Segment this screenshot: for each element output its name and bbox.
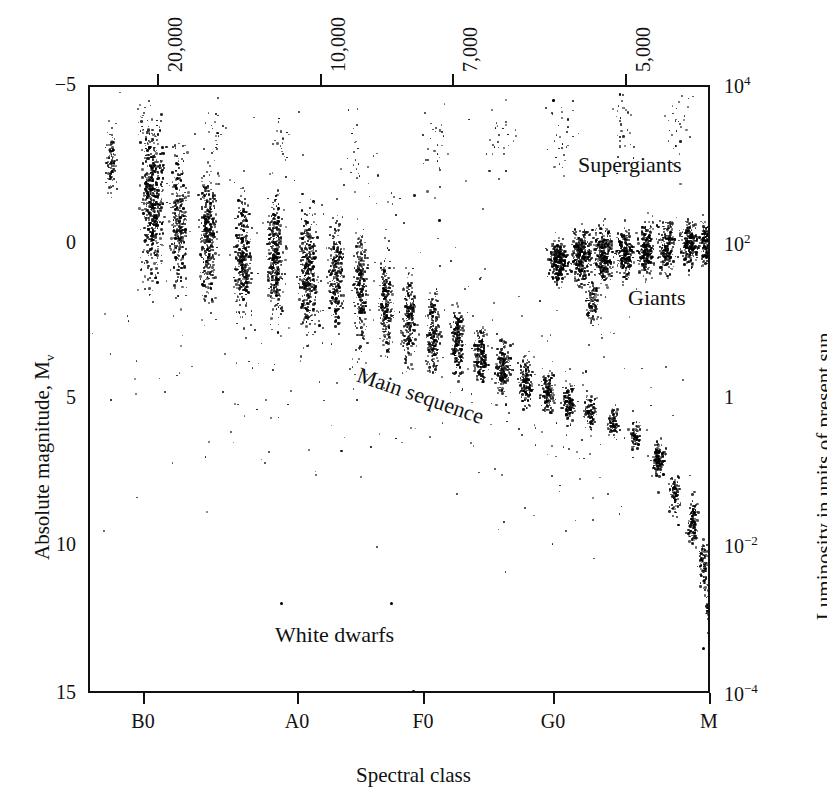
- data-point: [527, 394, 530, 397]
- data-point: [213, 271, 214, 272]
- data-point: [238, 248, 241, 251]
- data-point: [549, 379, 552, 382]
- data-point: [682, 232, 683, 233]
- data-point: [137, 289, 139, 291]
- data-point: [355, 245, 358, 248]
- data-point: [577, 279, 580, 282]
- data-point: [437, 153, 439, 155]
- data-point: [598, 324, 599, 325]
- data-point: [178, 252, 179, 253]
- data-point: [619, 136, 621, 138]
- data-point: [428, 366, 431, 369]
- data-point: [323, 400, 325, 402]
- data-point: [566, 131, 568, 133]
- data-point: [603, 246, 605, 248]
- data-point: [441, 376, 444, 379]
- data-point: [503, 521, 505, 523]
- data-point: [694, 223, 697, 226]
- data-point: [599, 269, 601, 271]
- data-point: [272, 218, 274, 220]
- data-point: [357, 251, 359, 253]
- annotation-white-dwarfs: White dwarfs: [275, 622, 394, 648]
- data-point: [684, 257, 687, 260]
- data-point: [205, 204, 207, 206]
- data-point: [428, 349, 430, 351]
- data-point: [246, 250, 248, 252]
- data-point: [658, 452, 660, 454]
- data-point: [215, 319, 216, 320]
- data-point: [353, 302, 355, 304]
- data-point: [199, 275, 202, 278]
- data-point: [624, 437, 626, 439]
- data-point: [273, 208, 275, 210]
- data-point: [589, 415, 590, 416]
- data-point: [403, 335, 406, 338]
- data-point: [527, 399, 530, 402]
- data-point: [282, 142, 284, 144]
- data-point: [338, 333, 340, 335]
- data-point: [541, 431, 543, 433]
- data-point: [373, 319, 375, 321]
- data-point: [229, 254, 231, 256]
- data-point: [677, 481, 679, 483]
- data-point: [425, 315, 426, 316]
- data-point: [361, 236, 364, 239]
- data-point: [561, 277, 564, 280]
- left-tick-label-1: 0: [66, 232, 76, 252]
- data-point: [669, 130, 671, 132]
- data-point: [585, 277, 587, 279]
- data-point: [451, 304, 454, 307]
- data-point: [284, 259, 287, 262]
- data-point: [563, 246, 565, 248]
- data-point: [212, 218, 215, 221]
- data-point: [315, 296, 317, 298]
- data-point: [552, 113, 554, 115]
- data-point: [483, 334, 484, 335]
- data-point: [107, 172, 110, 175]
- data-point: [450, 353, 453, 356]
- data-point: [159, 237, 162, 240]
- data-point: [363, 229, 364, 230]
- data-point: [330, 272, 333, 275]
- data-point: [567, 126, 569, 128]
- data-point: [494, 146, 496, 148]
- data-point: [549, 259, 552, 262]
- data-point: [162, 232, 165, 235]
- data-point: [597, 244, 599, 246]
- data-point: [215, 200, 218, 203]
- data-point: [411, 274, 413, 276]
- top-tick-0: [157, 74, 159, 85]
- data-point: [215, 220, 218, 223]
- data-point: [594, 398, 597, 401]
- data-point: [314, 323, 316, 325]
- data-point: [467, 368, 469, 370]
- data-point: [600, 317, 602, 319]
- data-point: [598, 256, 600, 258]
- data-point: [610, 247, 613, 250]
- data-point: [272, 369, 274, 371]
- data-point: [314, 292, 317, 295]
- data-point: [278, 417, 279, 418]
- data-point: [633, 251, 636, 254]
- data-point: [211, 152, 213, 154]
- data-point: [404, 362, 407, 365]
- data-point: [310, 226, 312, 228]
- data-point: [581, 286, 584, 289]
- data-point: [613, 261, 616, 264]
- data-point: [277, 209, 279, 211]
- data-point: [612, 425, 615, 428]
- data-point: [501, 392, 504, 395]
- data-point: [573, 408, 575, 410]
- data-point: [178, 167, 180, 169]
- data-point: [242, 187, 245, 190]
- data-point: [314, 299, 316, 301]
- data-point: [305, 314, 308, 317]
- data-point: [590, 241, 593, 244]
- data-point: [426, 190, 429, 193]
- data-point: [415, 428, 417, 430]
- data-point: [638, 263, 640, 265]
- data-point: [340, 243, 342, 245]
- data-point: [210, 198, 212, 200]
- data-point: [367, 264, 369, 266]
- data-point: [356, 288, 358, 290]
